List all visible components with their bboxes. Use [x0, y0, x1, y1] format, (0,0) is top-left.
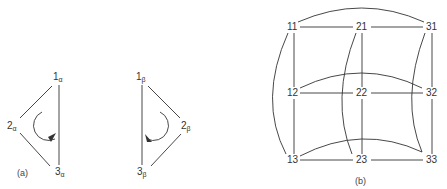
node-33: 33 [426, 155, 437, 165]
node-13: 13 [287, 155, 298, 165]
node-21: 21 [356, 22, 367, 32]
node-23: 23 [356, 155, 367, 165]
node-1-beta: 1β [136, 72, 146, 83]
node-3-beta: 3β [137, 167, 147, 178]
node-2-beta: 2β [181, 121, 191, 132]
node-12: 12 [287, 88, 298, 98]
edge-2a-3a [20, 133, 50, 166]
caption-b: (b) [355, 176, 366, 186]
node-3-alpha: 3α [55, 167, 65, 178]
node-31: 31 [426, 22, 437, 32]
caption-a: (a) [17, 168, 28, 178]
edge-1b-2b [148, 86, 180, 118]
node-22: 22 [356, 88, 367, 98]
diagram-lines [0, 0, 447, 189]
edge-2b-3b [151, 134, 181, 166]
node-11: 11 [287, 22, 297, 32]
node-32: 32 [426, 88, 437, 98]
node-2-alpha: 2α [7, 121, 17, 132]
arrowhead-icon [145, 134, 152, 142]
edge-1a-2a [20, 86, 52, 118]
rotation-arrow-cw [147, 112, 168, 140]
node-1-alpha: 1α [53, 72, 63, 83]
